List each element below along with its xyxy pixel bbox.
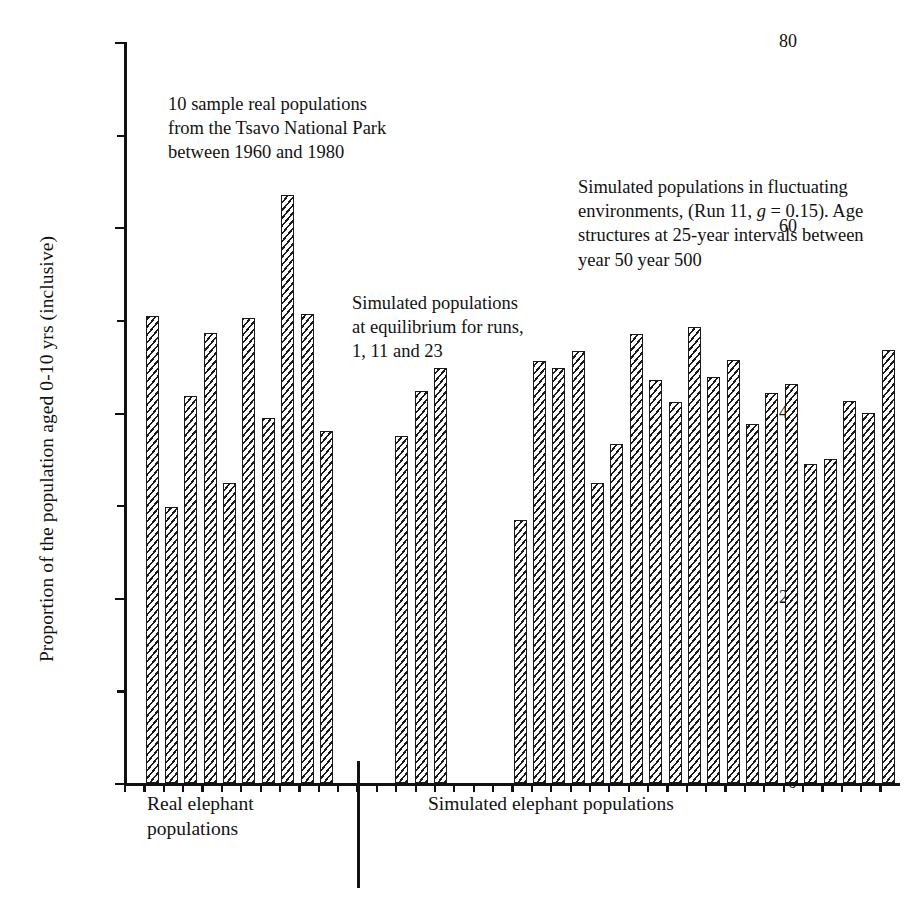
bar <box>649 380 662 783</box>
bar <box>552 368 565 783</box>
annotation-fluctuating-line4: year 50 year 500 <box>578 250 702 270</box>
bar <box>630 334 643 783</box>
bar <box>610 444 623 783</box>
x-tick <box>124 783 126 792</box>
bar <box>281 195 294 783</box>
bar <box>804 464 817 783</box>
x-tick <box>415 783 417 792</box>
bar <box>242 318 255 783</box>
figure-root: Proportion of the population aged 0-10 y… <box>0 0 907 918</box>
annotation-fluctuating-line2b: = 0.15). Age <box>766 201 863 221</box>
bar <box>882 350 895 783</box>
y-tick-major <box>115 42 124 44</box>
annotation-fluctuating-line3: structures at 25-year intervals between <box>578 225 864 245</box>
bar <box>165 507 178 783</box>
bar <box>591 483 604 783</box>
y-tick-minor <box>117 135 124 137</box>
bar <box>688 327 701 783</box>
x-group-label-simulated: Simulated elephant populations <box>428 791 848 816</box>
annotation-real-populations: 10 sample real populations from the Tsav… <box>168 92 438 165</box>
x-group-label-real: Real elephant populations <box>147 791 347 841</box>
group-separator-line <box>357 761 360 888</box>
y-tick-major <box>115 413 124 415</box>
bar <box>262 418 275 783</box>
bar <box>434 368 447 783</box>
x-tick <box>376 783 378 792</box>
bar <box>514 520 527 783</box>
y-tick-major <box>115 598 124 600</box>
bar <box>707 377 720 783</box>
annotation-fluctuating-symbol-g: g <box>757 201 766 221</box>
x-tick <box>860 783 862 792</box>
bar <box>301 314 314 783</box>
bar <box>320 431 333 783</box>
y-tick-minor <box>117 320 124 322</box>
bar <box>669 402 682 783</box>
y-tick-minor <box>117 690 124 692</box>
bar <box>533 361 546 783</box>
bar <box>727 360 740 783</box>
bar <box>843 401 856 783</box>
bar <box>184 396 197 783</box>
bar <box>765 393 778 783</box>
annotation-equilibrium: Simulated populations at equilibrium for… <box>352 291 567 364</box>
y-tick-minor <box>117 505 124 507</box>
x-tick <box>143 783 145 792</box>
bar <box>415 391 428 783</box>
bar <box>204 333 217 783</box>
y-tick-major <box>115 227 124 229</box>
y-tick-major <box>115 783 124 785</box>
bar <box>223 483 236 783</box>
x-tick <box>879 783 881 792</box>
annotation-fluctuating-line2a: environments, (Run 11, <box>578 201 757 221</box>
bar <box>572 351 585 783</box>
bar <box>824 459 837 783</box>
bar <box>785 384 798 783</box>
x-tick <box>395 783 397 792</box>
y-axis-title: Proportion of the population aged 0-10 y… <box>36 149 58 749</box>
bar <box>862 413 875 783</box>
bar <box>746 424 759 783</box>
annotation-fluctuating-line1: Simulated populations in fluctuating <box>578 177 848 197</box>
annotation-fluctuating: Simulated populations in fluctuatingenvi… <box>578 175 907 272</box>
bar <box>395 436 408 783</box>
bar <box>146 316 159 783</box>
